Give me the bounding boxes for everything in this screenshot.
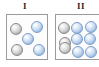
panel-i-label: I <box>15 2 35 11</box>
blue-sphere <box>84 33 96 45</box>
gray-sphere <box>10 23 22 35</box>
gray-sphere <box>59 42 71 54</box>
gray-sphere <box>58 22 70 34</box>
panel-i-box <box>6 14 48 60</box>
blue-sphere <box>33 44 45 56</box>
gray-sphere <box>11 44 23 56</box>
panel-ii-box <box>55 14 99 60</box>
sphere-diagram-figure: I II <box>0 0 99 67</box>
blue-sphere <box>22 33 34 45</box>
blue-sphere <box>71 33 83 45</box>
blue-sphere <box>72 46 84 58</box>
panel-ii-label: II <box>71 2 91 11</box>
blue-sphere <box>85 21 97 33</box>
blue-sphere <box>31 21 43 33</box>
blue-sphere <box>85 46 97 58</box>
